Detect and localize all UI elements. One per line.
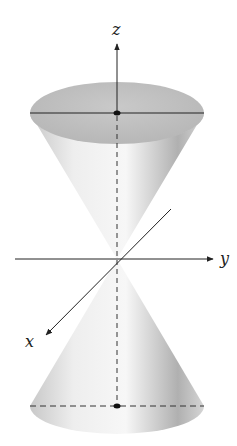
top-center-point — [114, 111, 121, 116]
z-axis-label: z — [111, 20, 121, 39]
y-axis-label: y — [219, 249, 230, 268]
bottom-center-point — [114, 404, 121, 409]
double-cone-diagram: z y x — [0, 0, 237, 446]
x-axis-label: x — [25, 332, 34, 351]
